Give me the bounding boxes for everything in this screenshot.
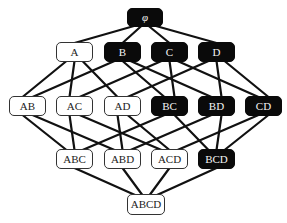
node-label: B: [119, 47, 126, 58]
node-AC: AC: [56, 96, 93, 116]
node-label: ABD: [111, 154, 134, 165]
node-BC: BC: [151, 96, 188, 116]
node-label: BD: [209, 101, 224, 112]
node-AB: AB: [9, 96, 46, 116]
node-BCD: BCD: [198, 149, 235, 169]
node-BD: BD: [198, 96, 235, 116]
node-label: AC: [67, 101, 82, 112]
node-ACD: ACD: [151, 149, 188, 169]
node-label: φ: [142, 12, 148, 23]
node-ABC: ABC: [56, 149, 93, 169]
node-AD: AD: [104, 96, 141, 116]
node-label: D: [213, 47, 221, 58]
edge-BD-ABD: [131, 115, 212, 150]
node-ABD: ABD: [104, 149, 141, 169]
node-ABCD: ABCD: [127, 194, 165, 215]
node-label: AB: [20, 101, 35, 112]
node-label: AD: [115, 101, 131, 112]
edge-C-AC: [80, 61, 162, 97]
node-phi: φ: [127, 8, 163, 27]
node-label: CD: [256, 101, 271, 112]
node-B: B: [104, 42, 141, 62]
node-label: ACD: [158, 154, 181, 165]
node-label: ABC: [63, 154, 86, 165]
edge-D-AD: [128, 61, 209, 97]
subset-lattice-diagram: φABCDABACADBCBDCDABCABDACDBCDABCD: [0, 0, 287, 223]
node-label: ABCD: [131, 199, 162, 210]
node-label: BC: [162, 101, 177, 112]
node-CD: CD: [245, 96, 282, 116]
node-D: D: [198, 42, 235, 62]
node-A: A: [56, 42, 93, 62]
node-label: C: [166, 47, 173, 58]
node-label: A: [71, 47, 79, 58]
node-label: BCD: [205, 154, 228, 165]
node-C: C: [151, 42, 188, 62]
edge-BC-ABC: [83, 115, 165, 150]
